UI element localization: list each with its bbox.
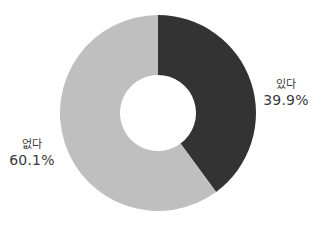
donut-svg — [0, 0, 321, 229]
slice-label-no-percent: 60.1% — [8, 152, 56, 170]
slice-label-no: 없다 60.1% — [8, 138, 56, 169]
donut-chart: 있다 39.9% 없다 60.1% — [0, 0, 321, 229]
slice-label-yes: 있다 39.9% — [262, 78, 310, 109]
slice-label-no-category: 없다 — [8, 138, 56, 152]
slice-label-yes-category: 있다 — [262, 78, 310, 92]
slice-label-yes-percent: 39.9% — [262, 92, 310, 110]
